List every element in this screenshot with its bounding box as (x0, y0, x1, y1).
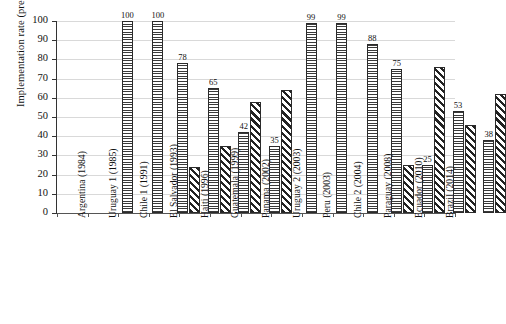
bar-series-2 (465, 125, 476, 213)
x-axis-category-label: Panama (2002) (260, 159, 271, 218)
x-axis-tick (210, 213, 211, 217)
x-axis-tick (149, 213, 150, 217)
x-axis-category-label: Peru (2003) (321, 172, 332, 218)
bar-value-label: 53 (447, 100, 470, 110)
x-axis-category-label: Uruguay 1 (1985) (107, 148, 118, 218)
x-axis-tick (179, 213, 180, 217)
bar-value-label: 65 (202, 77, 225, 87)
y-axis-tick (52, 155, 57, 156)
x-axis-category-label: Guatemala (1999) (229, 148, 240, 218)
x-axis-category-label: Argentina (1984) (76, 151, 87, 218)
x-axis-category-label: Chile 2 (2004) (352, 161, 363, 218)
y-axis-tick (52, 40, 57, 41)
x-axis-tick (363, 213, 364, 217)
y-axis-tick-label: 70 (14, 72, 48, 83)
bar-value-label: 99 (330, 12, 353, 22)
y-axis-tick (52, 175, 57, 176)
y-axis-tick-label: 60 (14, 91, 48, 102)
gridline (57, 21, 455, 22)
bar-series-1 (483, 140, 494, 213)
bar-value-label: 100 (116, 10, 139, 20)
y-axis-tick (52, 98, 57, 99)
x-axis-tick (241, 213, 242, 217)
x-axis-tick (394, 213, 395, 217)
x-axis-category-label: Ecuador (2010) (413, 157, 424, 218)
bar-series-1 (122, 21, 133, 213)
x-axis-category-label: Brazil (2014) (444, 166, 455, 218)
x-axis-tick (333, 213, 334, 217)
y-axis-tick (52, 79, 57, 80)
x-axis-tick (271, 213, 272, 217)
y-axis-tick (52, 136, 57, 137)
x-axis-category-label: Haiti (1996) (199, 170, 210, 218)
bar-series-1 (152, 21, 163, 213)
x-axis-tick (455, 213, 456, 217)
x-axis-tick (424, 213, 425, 217)
y-axis-tick (52, 117, 57, 118)
bar-series-2 (495, 94, 506, 213)
y-axis-tick-label: 30 (14, 148, 48, 159)
y-axis-tick-label: 100 (14, 14, 48, 25)
y-axis-tick-label: 80 (14, 52, 48, 63)
bar-series-1 (367, 44, 378, 213)
x-axis-category-label: Chile 1 (1991) (138, 161, 149, 218)
x-axis-tick (302, 213, 303, 217)
bar-value-label: 99 (300, 12, 323, 22)
y-axis-tick-label: 10 (14, 187, 48, 198)
bar-value-label: 88 (361, 33, 384, 43)
y-axis-tick (52, 194, 57, 195)
y-axis-tick-label: 40 (14, 129, 48, 140)
x-axis-category-label: Uruguay 2 (2003) (291, 148, 302, 218)
bar-value-label: 100 (146, 10, 169, 20)
y-axis-tick-label: 0 (14, 206, 48, 217)
bar-series-1 (306, 23, 317, 213)
y-axis-tick-label: 20 (14, 168, 48, 179)
y-axis-tick (52, 59, 57, 60)
bar-value-label: 75 (385, 58, 408, 68)
bar-value-label: 78 (171, 52, 194, 62)
x-axis-category-label: El Salvador (1993) (168, 144, 179, 218)
bar-series-1 (336, 23, 347, 213)
y-axis-tick (52, 21, 57, 22)
y-axis-tick-label: 90 (14, 33, 48, 44)
y-axis-tick-label: 50 (14, 110, 48, 121)
x-axis-tick (118, 213, 119, 217)
x-axis-tick (57, 213, 58, 217)
gridline (57, 40, 455, 41)
x-axis-tick (88, 213, 89, 217)
x-axis-category-label: Paraguay (2008) (382, 154, 393, 218)
